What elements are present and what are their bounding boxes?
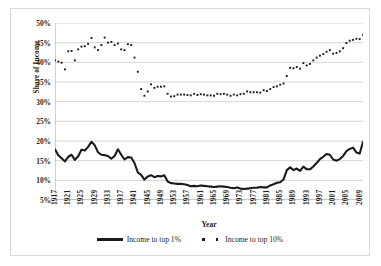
- y-axis-title: Share of Income: [32, 12, 41, 122]
- x-tick-label: 1961: [197, 190, 205, 205]
- x-tick-label: 1965: [210, 190, 218, 205]
- x-tick-label: 1941: [130, 190, 138, 205]
- x-tick-label: 1989: [289, 190, 297, 205]
- x-tick-label: 1933: [104, 190, 112, 205]
- x-tick-label: 1937: [117, 190, 125, 205]
- x-tick-label: 1921: [64, 190, 72, 205]
- x-tick-label: 1917: [51, 190, 59, 205]
- legend-label-top-1: Income to top 1%: [127, 235, 181, 244]
- x-tick-label: 1973: [236, 190, 244, 205]
- x-tick-label: 1925: [77, 190, 85, 205]
- y-tick-label: 20%: [36, 137, 51, 146]
- x-tick-label: 2009: [356, 190, 364, 205]
- legend-line-icon: [97, 238, 123, 241]
- y-tick-label: 5%: [40, 196, 51, 205]
- x-tick-label: 1977: [250, 190, 258, 205]
- legend-dot-icon: [199, 238, 221, 241]
- x-tick-label: 1949: [157, 190, 165, 205]
- plot-area: 5%10%15%20%25%30%35%40%45%50%19171921192…: [55, 23, 363, 200]
- x-tick-label: 1997: [316, 190, 324, 205]
- chart-figure: 5%10%15%20%25%30%35%40%45%50%19171921192…: [10, 8, 370, 256]
- legend-label-top-10: Income to top 10%: [225, 235, 283, 244]
- x-tick-label: 1945: [144, 190, 152, 205]
- x-tick-label: 1953: [170, 190, 178, 205]
- x-tick-label: 2005: [342, 190, 350, 205]
- x-tick-label: 1969: [223, 190, 231, 205]
- legend-entry-top-1: Income to top 1%: [97, 235, 181, 244]
- x-tick-label: 1981: [263, 190, 271, 205]
- x-tick-label: 2001: [329, 190, 337, 205]
- data-series-layer: [55, 23, 363, 200]
- chart-legend: Income to top 1% Income to top 10%: [11, 235, 369, 244]
- x-tick-label: 1929: [91, 190, 99, 205]
- x-tick-label: 1993: [303, 190, 311, 205]
- x-tick-label: 1957: [183, 190, 191, 205]
- x-axis-title: Year: [55, 220, 363, 229]
- y-tick-label: 15%: [36, 156, 51, 165]
- legend-entry-top-10: Income to top 10%: [199, 235, 283, 244]
- y-tick-label: 10%: [36, 176, 51, 185]
- x-tick-label: 1985: [276, 190, 284, 205]
